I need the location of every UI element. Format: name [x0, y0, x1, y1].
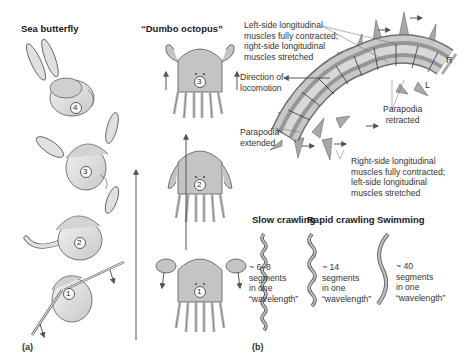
octopus-stage-3-number: 3 [197, 77, 201, 86]
sea-butterfly-stage-2-number: 2 [77, 238, 81, 247]
octopus-stage-2-number: 2 [197, 180, 201, 189]
mode-slow-crawling-title: Slow crawling [252, 214, 315, 225]
label-side-l: L [425, 80, 430, 91]
sea-butterfly-stage-3-number: 3 [83, 167, 87, 176]
sea-butterfly-title: Sea butterfly [21, 23, 79, 34]
sea-butterfly-stage-4 [23, 37, 94, 116]
panel-b-tag: (b) [252, 342, 264, 352]
octopus-stage-1-number: 1 [197, 287, 201, 296]
sea-butterfly-stage-3 [33, 111, 121, 190]
label-right-contracted: Right-side longitudinal muscles fully co… [351, 156, 445, 198]
label-side-r: R [446, 55, 453, 66]
sea-butterfly-stage-markers [64, 103, 92, 300]
label-left-contracted: Left-side longitudinal muscles fully con… [244, 20, 338, 62]
wave-rapid-crawling [309, 234, 315, 306]
mode-swimming-desc: ~ 40 segments in one “wavelength” [396, 261, 445, 303]
wave-swimming [378, 234, 388, 304]
mode-rapid-crawling-title: Rapid crawling [307, 214, 375, 225]
sea-butterfly-stage-1-number: 1 [66, 289, 70, 298]
mode-slow-crawling-desc: ~ 6–8 segments in one “wavelength” [249, 262, 298, 304]
sea-butterfly-stage-2 [26, 185, 121, 260]
mode-swimming-title: Swimming [377, 214, 425, 225]
mode-rapid-crawling-desc: ~ 14 segments in one “wavelength” [322, 262, 371, 304]
label-direction-of-locomotion: Direction of locomotion [240, 72, 283, 93]
label-parapodia-retracted: Parapodia retracted [383, 104, 422, 125]
sea-butterfly-stage-4-number: 4 [73, 103, 77, 112]
dumbo-octopus-title: “Dumbo octopus” [141, 23, 223, 34]
panel-a-tag: (a) [22, 342, 33, 352]
label-parapodia-extended: Parapodia extended [240, 127, 279, 148]
sea-butterfly-stage-1 [32, 262, 124, 337]
